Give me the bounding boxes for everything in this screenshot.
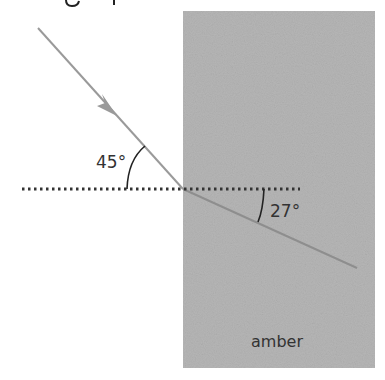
heading-fragment-g — [66, 0, 79, 6]
incident-angle-label: 45° — [96, 152, 126, 172]
medium-label: amber — [251, 332, 303, 351]
incident-angle-arc — [127, 146, 145, 189]
refracted-angle-label: 27° — [270, 201, 300, 221]
refraction-diagram: 45° 27° amber — [0, 0, 385, 380]
amber-block — [183, 11, 375, 368]
